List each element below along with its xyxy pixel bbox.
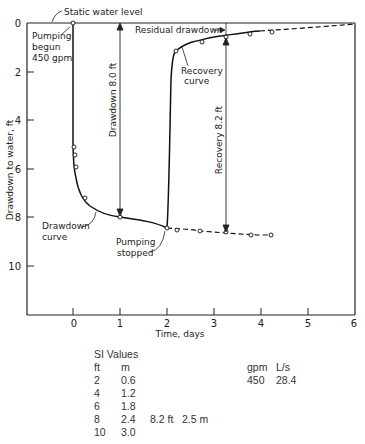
svg-text:10: 10 — [8, 261, 21, 272]
x-axis-tick-labels: 0 1 2 3 4 5 6 — [71, 318, 357, 329]
recovery-curve-leader — [182, 47, 188, 66]
si-m-value: 1.2 — [121, 387, 136, 400]
svg-text:begun: begun — [32, 42, 60, 52]
svg-text:2: 2 — [15, 67, 21, 78]
si-m-value: 1.8 — [121, 400, 136, 413]
si-gpm-value: 450 — [247, 374, 265, 387]
si-ft-value: 10 — [94, 426, 106, 439]
svg-text:curve: curve — [42, 232, 68, 242]
svg-text:Recovery: Recovery — [181, 66, 223, 76]
svg-text:Pumping: Pumping — [32, 31, 71, 41]
residual-drawdown-label: Residual drawdown — [135, 25, 222, 35]
si-m-value: 3.0 — [121, 426, 136, 439]
drawdown-curve-label: Drawdown curve — [42, 221, 90, 242]
recovery-projected-dashed — [260, 24, 354, 31]
svg-text:1: 1 — [117, 318, 123, 329]
y-axis-label: Drawdown to water, ft — [5, 119, 15, 220]
svg-text:stopped: stopped — [117, 248, 153, 258]
si-header-gpm: gpm — [247, 361, 267, 374]
svg-text:2: 2 — [164, 318, 170, 329]
si-m-value: 0.6 — [121, 374, 136, 387]
svg-text:curve: curve — [184, 76, 210, 86]
si-extra-m: 2.5 m — [182, 413, 208, 426]
si-header-ft: ft — [94, 361, 100, 374]
svg-text:4: 4 — [15, 115, 21, 126]
data-point-markers — [71, 21, 274, 237]
si-ft-value: 8 — [94, 413, 100, 426]
pumping-begun-label: Pumping begun 450 gpm — [32, 31, 72, 63]
static-water-level-label: Static water level — [64, 7, 143, 17]
pumping-stopped-label: Pumping stopped — [116, 237, 155, 258]
svg-text:0: 0 — [71, 318, 77, 329]
drawdown-recovery-chart: 0 2 4 6 8 10 Drawdown to water, ft 0 1 2… — [0, 0, 365, 340]
svg-text:0: 0 — [15, 18, 21, 29]
svg-text:4: 4 — [258, 318, 264, 329]
recovery-8-2ft-label: Recovery 8.2 ft — [214, 105, 224, 174]
si-values-title: SI Values — [94, 348, 138, 361]
si-ls-value: 28.4 — [276, 374, 296, 387]
svg-text:450 gpm: 450 gpm — [32, 53, 72, 63]
si-header-ls: L/s — [276, 361, 290, 374]
static-water-level-leader — [52, 11, 62, 22]
si-ft-value: 2 — [94, 374, 100, 387]
y-axis-ticks — [27, 72, 34, 266]
x-axis-label: Time, days — [155, 329, 205, 339]
drawdown-projected-dashed — [167, 228, 270, 235]
svg-text:6: 6 — [15, 164, 21, 175]
si-extra-ft: 8.2 ft — [150, 413, 173, 426]
svg-text:Drawdown: Drawdown — [42, 221, 90, 231]
svg-text:6: 6 — [351, 318, 357, 329]
si-ft-value: 4 — [94, 387, 100, 400]
si-header-m: m — [121, 361, 130, 374]
svg-text:8: 8 — [15, 212, 21, 223]
si-ft-value: 6 — [94, 400, 100, 413]
x-axis-ticks — [73, 308, 308, 315]
svg-text:3: 3 — [211, 318, 217, 329]
drawdown-8ft-label: Drawdown 8.0 ft — [108, 62, 118, 137]
svg-text:5: 5 — [305, 318, 311, 329]
svg-text:Pumping: Pumping — [116, 237, 155, 247]
si-m-value: 2.4 — [121, 413, 136, 426]
recovery-curve-label: Recovery curve — [181, 66, 223, 86]
